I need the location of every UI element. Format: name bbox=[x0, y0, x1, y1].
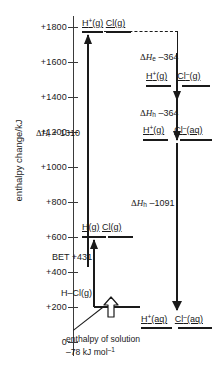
y-axis-tick-label: +1800 bbox=[41, 22, 67, 32]
step-label-hydration-chloride: ΔHh –364 bbox=[140, 108, 178, 119]
step-symbol-bet: BET bbox=[52, 252, 69, 262]
arrow-head-up-icon bbox=[84, 34, 92, 44]
level-label-hplus-aq-clminus-aq: H+(aq) Cl–(aq) bbox=[141, 313, 203, 325]
annotation-leader-line bbox=[73, 307, 104, 331]
species-clminus-aq: Cl–(aq) bbox=[174, 125, 202, 135]
step-value-hydration-proton: –1091 bbox=[149, 198, 174, 208]
species-hplus-g: H+(g) bbox=[82, 18, 103, 28]
level-bar-clminus-g bbox=[182, 85, 210, 87]
level-bar-clminus-aq bbox=[180, 139, 212, 141]
species-cl-g: Cl(g) bbox=[106, 18, 126, 28]
species-hplus-aq: H+(aq) bbox=[141, 314, 167, 324]
level-bar-hplus-g-3 bbox=[143, 139, 168, 141]
annotation-exponent: –1 bbox=[108, 346, 115, 353]
y-axis-tick bbox=[68, 202, 78, 203]
enthalpy-of-solution-arrow-icon bbox=[101, 296, 121, 322]
level-bar-clminus-aq-2 bbox=[178, 327, 212, 329]
step-value-electron-affinity: –364 bbox=[158, 52, 178, 62]
species-h-g: H(g) bbox=[82, 222, 100, 232]
y-axis-tick-label: +600 bbox=[46, 232, 67, 242]
level-bar-hplus-g bbox=[82, 31, 103, 33]
level-label-hplus-g-cl-g: H+(g) Cl(g) bbox=[82, 17, 125, 29]
level-bar-hplus-g-2 bbox=[146, 85, 171, 87]
step-subscript-ionisation: i bbox=[48, 131, 49, 138]
y-axis-tick bbox=[68, 272, 78, 273]
y-axis-tick bbox=[68, 27, 78, 28]
enthalpy-diagram: enthalpy change/kJ +1800 +1600 +1400 +12… bbox=[0, 0, 218, 367]
y-axis-tick bbox=[68, 237, 78, 238]
species-cl-g-mid: Cl(g) bbox=[102, 222, 122, 232]
species-hcl-g: H–Cl(g) bbox=[61, 288, 92, 298]
annotation-line-1: enthalpy of solution bbox=[66, 334, 140, 346]
step-subscript-hydration-proton: h bbox=[143, 201, 147, 208]
species-hplus-g-3: H+(g) bbox=[143, 125, 164, 135]
step-label-ionisation: ΔHi + 1310 bbox=[36, 128, 80, 139]
connector-drop-top bbox=[177, 31, 178, 53]
y-axis-tick-label: +400 bbox=[46, 267, 67, 277]
y-axis-tick bbox=[68, 307, 78, 308]
y-axis-tick-label: +200 bbox=[46, 302, 67, 312]
step-value-bet: +431 bbox=[72, 252, 92, 262]
species-hplus-g-2: H+(g) bbox=[146, 71, 167, 81]
annotation-value: –78 kJ mol bbox=[66, 347, 108, 357]
step-label-hydration-proton: ΔHh –1091 bbox=[131, 198, 174, 209]
level-bar-cl-g-mid bbox=[108, 236, 133, 238]
y-axis-tick-label: +1000 bbox=[41, 162, 67, 172]
level-label-hplus-g-clminus-g: H+(g) Cl–(g) bbox=[146, 70, 200, 82]
y-axis-line bbox=[73, 16, 74, 356]
step-value-ionisation: + 1310 bbox=[52, 128, 80, 138]
step-value-hydration-chloride: –364 bbox=[158, 108, 178, 118]
level-bar-hplus-aq bbox=[141, 327, 172, 329]
annotation-line-2: –78 kJ mol–1 bbox=[66, 346, 140, 359]
y-axis-tick-label: +1600 bbox=[41, 57, 67, 67]
y-axis-tick bbox=[68, 167, 78, 168]
species-clminus-aq-2: Cl–(aq) bbox=[175, 314, 203, 324]
step-subscript-electron-affinity: e bbox=[152, 55, 156, 62]
y-axis-title: enthalpy change/kJ bbox=[13, 96, 24, 226]
level-bar-h-g bbox=[82, 236, 106, 238]
level-label-h-g-cl-g: H(g) Cl(g) bbox=[82, 222, 122, 233]
y-axis-tick bbox=[68, 97, 78, 98]
annotation-enthalpy-of-solution: enthalpy of solution –78 kJ mol–1 bbox=[66, 334, 140, 358]
step-label-electron-affinity: ΔHe –364 bbox=[140, 52, 178, 63]
arrow-shaft bbox=[176, 143, 179, 310]
y-axis-tick bbox=[68, 62, 78, 63]
arrow-head-down-icon bbox=[172, 301, 182, 311]
dashed-connector-top bbox=[104, 31, 178, 32]
step-label-bet: BET +431 bbox=[52, 252, 92, 263]
y-axis-tick-label: +1400 bbox=[41, 92, 67, 102]
level-label-hcl-g: H–Cl(g) bbox=[61, 288, 92, 299]
y-axis-tick-label: +800 bbox=[46, 197, 67, 207]
arrow-head-up-icon bbox=[90, 239, 98, 249]
arrow-shaft bbox=[93, 240, 95, 307]
level-label-hplus-g-clminus-aq: H+(g) Cl–(aq) bbox=[143, 124, 202, 136]
step-subscript-hydration-chloride: h bbox=[152, 111, 156, 118]
species-clminus-g: Cl–(g) bbox=[177, 71, 200, 81]
